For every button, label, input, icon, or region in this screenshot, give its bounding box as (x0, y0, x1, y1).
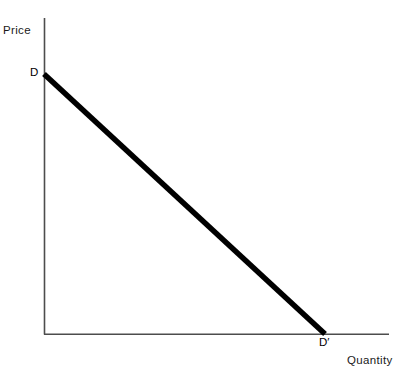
curve-start-label-d: D (30, 67, 38, 79)
demand-curve-figure: Price Quantity D D′ (0, 0, 408, 386)
demand-curve-line (44, 74, 325, 334)
y-axis-label: Price (3, 25, 31, 37)
plot-area (0, 0, 408, 386)
x-axis-label: Quantity (347, 355, 393, 367)
curve-end-label-d-prime: D′ (319, 337, 329, 349)
